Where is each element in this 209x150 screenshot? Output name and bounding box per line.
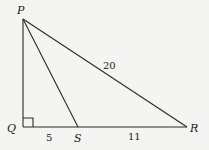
segment-ps bbox=[23, 19, 78, 127]
point-label-s: S bbox=[74, 132, 82, 145]
length-label-pr: 20 bbox=[103, 60, 116, 71]
segment-pr bbox=[23, 19, 187, 127]
right-angle-marker bbox=[23, 118, 33, 127]
point-label-p: P bbox=[16, 4, 25, 17]
length-label-sr: 11 bbox=[128, 131, 141, 142]
point-label-q: Q bbox=[7, 122, 16, 135]
point-label-r: R bbox=[189, 122, 198, 135]
triangle-diagram: P Q S R 5 11 20 bbox=[0, 0, 209, 150]
length-label-qs: 5 bbox=[46, 132, 52, 143]
